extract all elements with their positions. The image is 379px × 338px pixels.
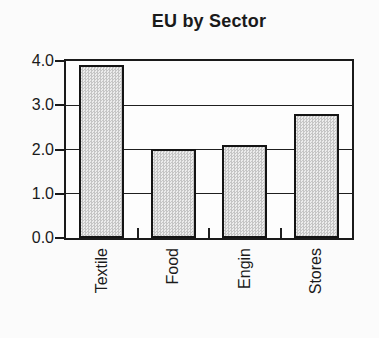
x-label-textile: Textile (92, 248, 112, 328)
y-tick-label: 1.0 (10, 184, 54, 204)
bar-stores (294, 114, 339, 238)
chart-title: EU by Sector (64, 11, 354, 32)
x-label-food: Food (163, 248, 183, 328)
bar-food (151, 149, 196, 238)
y-tick-mark (55, 104, 64, 106)
y-tick-label: 0.0 (10, 228, 54, 248)
y-tick-label: 3.0 (10, 95, 54, 115)
bar-textile (79, 65, 124, 238)
y-tick-label: 4.0 (10, 51, 54, 71)
bar-engin (222, 145, 267, 238)
x-minor-tick (208, 228, 210, 238)
plot-area (64, 59, 354, 240)
x-label-stores: Stores (306, 248, 326, 328)
y-tick-label: 2.0 (10, 140, 54, 160)
y-tick-mark (55, 60, 64, 62)
x-label-engin: Engin (235, 248, 255, 328)
y-tick-mark (55, 193, 64, 195)
x-minor-tick (137, 228, 139, 238)
y-tick-mark (55, 149, 64, 151)
x-minor-tick (280, 228, 282, 238)
y-tick-mark (55, 237, 64, 239)
bar-chart: EU by Sector 0.01.02.03.04.0 TextileFood… (0, 0, 379, 338)
